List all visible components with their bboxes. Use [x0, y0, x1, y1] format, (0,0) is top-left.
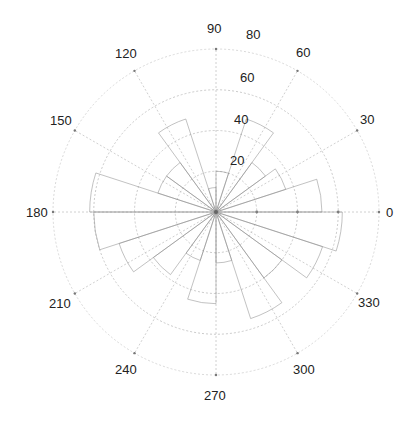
origin-marker	[214, 210, 218, 214]
rose-wedge	[216, 119, 273, 212]
angle-label-0: 0	[386, 205, 393, 220]
rose-wedge	[119, 212, 216, 272]
angular-grid-spoke	[216, 212, 357, 294]
angular-grid-spoke	[216, 131, 357, 213]
angular-tick-marker	[378, 211, 380, 213]
angular-grid-spoke	[135, 212, 217, 353]
radial-label-40: 40	[234, 112, 248, 127]
angular-tick-marker	[215, 374, 217, 376]
rose-wedge	[153, 212, 216, 275]
rose-wedge	[159, 119, 216, 212]
angular-tick-marker	[133, 70, 135, 72]
angular-tick-marker	[296, 352, 298, 354]
angle-label-120: 120	[115, 46, 137, 61]
angular-tick-marker	[356, 129, 358, 131]
radial-label-20: 20	[230, 153, 244, 168]
rose-wedge	[216, 212, 323, 278]
rose-wedge	[158, 176, 216, 212]
angle-label-210: 210	[49, 296, 71, 311]
angle-label-60: 60	[296, 45, 310, 60]
angle-label-300: 300	[293, 362, 315, 377]
angular-grid-spoke	[216, 71, 298, 212]
polar-rose-chart: 0 30 60 90 120 150 180 210 240 270 300 3…	[0, 0, 416, 427]
angular-grid-spoke	[75, 212, 216, 294]
rose-wedge	[216, 212, 342, 251]
angle-label-240: 240	[115, 362, 137, 377]
rose-wedge	[90, 173, 216, 212]
radial-label-60: 60	[240, 70, 254, 85]
angular-tick-marker	[74, 129, 76, 131]
angle-label-180: 180	[26, 205, 48, 220]
angular-tick-marker	[215, 48, 217, 50]
angle-label-330: 330	[358, 295, 380, 310]
radial-label-80: 80	[246, 27, 260, 42]
angle-label-270: 270	[204, 388, 226, 403]
rose-wedge	[216, 212, 282, 278]
rose-wedges	[90, 119, 343, 319]
angle-label-30: 30	[360, 112, 374, 127]
angular-tick-marker	[296, 70, 298, 72]
angular-tick-marker	[52, 211, 54, 213]
angle-label-150: 150	[50, 113, 72, 128]
angle-label-90: 90	[207, 21, 221, 36]
angular-tick-marker	[133, 352, 135, 354]
angular-grid-spoke	[135, 71, 217, 212]
rose-wedge	[216, 212, 282, 319]
angular-tick-marker	[74, 292, 76, 294]
angular-grid-spoke	[216, 212, 298, 353]
angular-grid-spoke	[75, 131, 216, 213]
